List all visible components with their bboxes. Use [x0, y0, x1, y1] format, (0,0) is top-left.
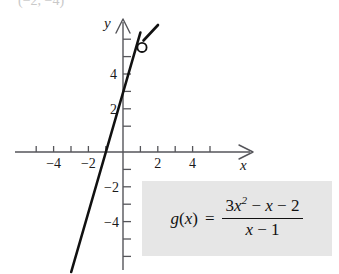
- formula-callout-box: g(x) = 3x2 − x − 2 x − 1: [142, 181, 332, 256]
- x-tick-label-4: 4: [189, 156, 196, 171]
- formula-lhs: g(x): [171, 209, 198, 229]
- formula-numerator: 3x2 − x − 2: [222, 195, 304, 218]
- function-formula: g(x) = 3x2 − x − 2 x − 1: [171, 195, 304, 241]
- y-axis-label: y: [102, 15, 111, 31]
- x-tick-label-minus4: −4: [46, 156, 61, 171]
- x-tick-label-minus2: −2: [81, 156, 96, 171]
- open-circle-hole-icon: [137, 43, 146, 52]
- y-tick-label-4: 4: [110, 67, 117, 82]
- formula-fraction: 3x2 − x − 2 x − 1: [222, 195, 304, 241]
- formula-denominator: x − 1: [241, 219, 283, 242]
- y-tick-label-minus4: −4: [104, 215, 119, 230]
- formula-equals: =: [205, 209, 215, 229]
- function-line-upper: [144, 25, 159, 41]
- x-tick-label-2: 2: [154, 156, 161, 171]
- x-axis-label: x: [239, 157, 247, 173]
- figure-page: (−2, −4): [0, 0, 339, 274]
- y-tick-label-minus2: −2: [104, 180, 119, 195]
